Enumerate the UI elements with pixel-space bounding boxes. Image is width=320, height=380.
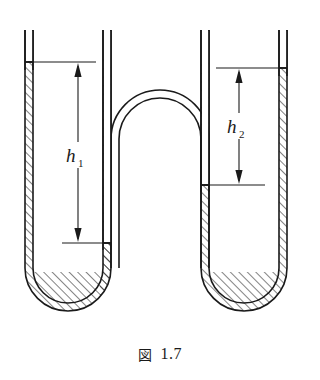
right-tube-inner-wall <box>209 30 279 303</box>
h2-arrowhead-down-icon <box>235 170 242 184</box>
h1-arrowhead-up-icon <box>74 63 81 77</box>
h1-label: h <box>66 145 76 166</box>
arch-inner-wall <box>119 98 201 268</box>
figure-caption-label: 図 <box>138 344 153 364</box>
left-tube-outer-wall <box>25 30 111 311</box>
wall-outline-restroke <box>25 30 287 250</box>
right-inner-air-gap <box>202 31 209 184</box>
center-inverted-u-arch <box>111 90 209 268</box>
h2-label: h <box>227 116 237 137</box>
h2-arrowhead-up-icon <box>235 69 242 83</box>
right-outer-air-gap <box>280 31 287 67</box>
figure-caption: 図1.7 <box>0 344 320 364</box>
h1-label-subscript: 1 <box>78 157 84 169</box>
h1-arrowhead-down-icon <box>74 228 81 242</box>
right-u-tube <box>196 30 296 332</box>
h2-label-subscript: 2 <box>239 128 245 140</box>
manometer-diagram: h 1 h 2 <box>0 0 320 380</box>
left-inner-air-gap <box>104 31 111 242</box>
figure-caption-number: 1.7 <box>161 345 183 363</box>
figure-container: h 1 h 2 図1.7 <box>0 0 320 380</box>
left-outer-air-gap <box>26 31 33 61</box>
right-tube-outer-wall <box>201 30 287 311</box>
